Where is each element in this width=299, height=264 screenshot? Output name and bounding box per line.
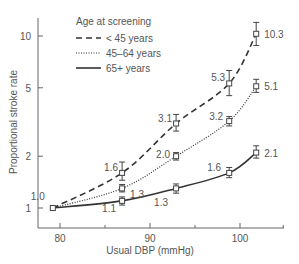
data-label: 1.6 [104, 162, 118, 173]
x-tick-label: 80 [54, 233, 66, 244]
series-line-dashed [53, 34, 256, 208]
y-tick-label: 5 [25, 83, 31, 94]
y-tick-label: 10 [20, 31, 32, 42]
legend-entry: < 45 years [106, 33, 153, 44]
chart-canvas: 125108090100Usual DBP (mmHg)Proportional… [0, 0, 299, 264]
y-tick-label: 1 [25, 203, 31, 214]
data-point-marker [227, 119, 232, 124]
data-point-marker [120, 170, 125, 175]
legend-entry: 45–64 years [106, 48, 161, 59]
data-label: 2.0 [156, 149, 170, 160]
data-point-marker [254, 150, 259, 155]
data-label: 1.3 [130, 189, 144, 200]
data-label: 1.3 [154, 197, 168, 208]
data-point-marker [174, 186, 179, 191]
data-label: 10.3 [264, 29, 284, 40]
data-label: 3.2 [209, 111, 223, 122]
legend-entry: 65+ years [106, 63, 150, 74]
data-label: 1.6 [207, 162, 221, 173]
data-point-marker [174, 121, 179, 126]
stroke-rate-chart: 125108090100Usual DBP (mmHg)Proportional… [0, 0, 299, 264]
data-label: 1.1 [102, 203, 116, 214]
data-point-marker [254, 84, 259, 89]
data-point-marker [227, 170, 232, 175]
data-point-marker [120, 186, 125, 191]
series-line-dotted [53, 86, 256, 208]
data-point-marker [254, 31, 259, 36]
data-point-marker [50, 206, 55, 211]
data-label: 3.1 [158, 113, 172, 124]
legend-title: Age at screening [76, 16, 151, 27]
x-axis-label: Usual DBP (mmHg) [106, 245, 194, 256]
data-label: 2.1 [264, 148, 278, 159]
data-label: 5.3 [211, 72, 225, 83]
data-label: 1.0 [31, 191, 45, 202]
y-axis-label: Proportional stroke rate [8, 70, 19, 174]
data-label: 5.1 [264, 81, 278, 92]
data-point-marker [174, 154, 179, 159]
data-point-marker [227, 81, 232, 86]
x-tick-label: 90 [144, 233, 156, 244]
data-point-marker [120, 198, 125, 203]
y-tick-label: 2 [25, 151, 31, 162]
x-tick-label: 100 [232, 233, 249, 244]
